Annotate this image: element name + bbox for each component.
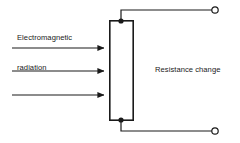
- schematic-diagram: Electromagnetic radiation Resistance cha…: [0, 0, 240, 143]
- electromagnetic-radiation-label-line2: radiation: [17, 63, 107, 73]
- sensing-element-rectangle: [110, 21, 133, 120]
- electromagnetic-radiation-label: Electromagnetic radiation: [17, 13, 107, 93]
- electromagnetic-radiation-label-line1: Electromagnetic: [17, 33, 107, 43]
- bottom-terminal: [212, 128, 218, 134]
- resistance-change-label: Resistance change: [155, 65, 239, 75]
- bottom-junction-node: [118, 117, 123, 122]
- bottom-lead-wire: [121, 120, 212, 131]
- top-junction-node: [118, 18, 123, 23]
- top-terminal: [212, 7, 218, 13]
- top-lead-wire: [121, 10, 212, 21]
